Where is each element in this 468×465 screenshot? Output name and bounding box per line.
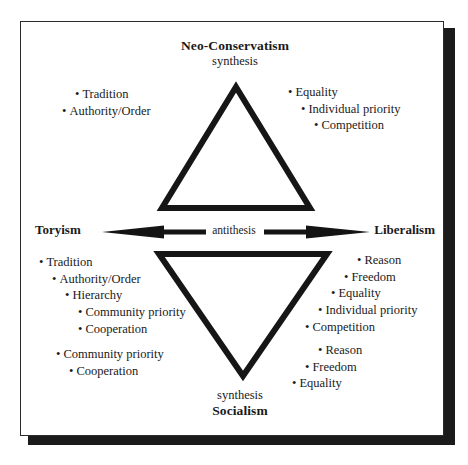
bottom-synthesis-heading: synthesis Socialism [170, 388, 310, 419]
list-item: Competition [305, 319, 455, 336]
toryism-attributes: Tradition Authority/Order Hierarchy Comm… [26, 254, 206, 337]
diagram-canvas: Neo-Conservatism synthesis Tradition Aut… [0, 0, 468, 465]
list-item: Tradition [62, 86, 202, 103]
list-item: Authority/Order [26, 271, 206, 288]
list-item: Authority/Order [62, 103, 202, 120]
neo-conservatism-right-attributes: Equality Individual priority Competition [288, 84, 448, 134]
list-item: Community priority [26, 304, 206, 321]
list-item: Reason [292, 342, 442, 359]
right-arrow-icon [264, 224, 370, 240]
list-item: Equality [305, 285, 455, 302]
socialism-right-attributes: Reason Freedom Equality [292, 342, 442, 392]
bottom-synthesis-sublabel: synthesis [170, 388, 310, 403]
list-item: Freedom [292, 359, 442, 376]
top-synthesis-heading: Neo-Conservatism synthesis [135, 38, 335, 69]
neo-conservatism-label: Neo-Conservatism [135, 38, 335, 54]
socialism-label: Socialism [170, 403, 310, 419]
liberalism-pole-label: Liberalism [374, 222, 435, 238]
list-item: Equality [292, 375, 442, 392]
list-item: Reason [305, 252, 455, 269]
list-item: Competition [288, 117, 448, 134]
liberalism-attributes: Reason Freedom Equality Individual prior… [305, 252, 455, 335]
list-item: Tradition [26, 254, 206, 271]
top-synthesis-sublabel: synthesis [135, 54, 335, 69]
list-item: Cooperation [26, 321, 206, 338]
list-item: Individual priority [305, 302, 455, 319]
list-item: Hierarchy [26, 287, 206, 304]
socialism-left-attributes: Community priority Cooperation [56, 346, 216, 379]
list-item: Freedom [305, 269, 455, 286]
list-item: Community priority [56, 346, 216, 363]
list-item: Individual priority [288, 101, 448, 118]
list-item: Cooperation [56, 363, 216, 380]
list-item: Equality [288, 84, 448, 101]
neo-conservatism-left-attributes: Tradition Authority/Order [62, 86, 202, 119]
